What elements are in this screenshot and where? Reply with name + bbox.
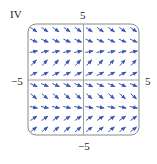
field-arrow <box>64 27 70 31</box>
field-arrow <box>30 72 37 75</box>
field-arrow <box>41 107 48 108</box>
field-arrow <box>30 84 37 87</box>
field-arrow <box>108 39 115 42</box>
field-arrow <box>63 51 70 52</box>
field-arrow <box>52 51 59 52</box>
field-arrow <box>86 84 93 87</box>
field-arrow <box>42 127 48 132</box>
field-arrow <box>53 127 59 132</box>
field-arrow <box>63 107 70 108</box>
field-arrow <box>75 94 81 99</box>
field-arrow <box>119 72 126 75</box>
field-arrow <box>131 60 136 66</box>
field-arrow <box>85 107 92 108</box>
field-arrow <box>31 127 37 132</box>
field-arrow <box>75 116 81 120</box>
field-arrow <box>64 72 71 75</box>
field-arrow <box>41 72 48 75</box>
field-arrow <box>86 127 92 132</box>
field-arrow <box>41 51 48 52</box>
field-arrow <box>52 72 59 75</box>
field-arrow <box>119 127 125 132</box>
field-arrow <box>64 116 70 120</box>
field-arrow <box>74 107 81 108</box>
field-arrow <box>86 27 92 31</box>
field-arrow <box>64 127 70 132</box>
field-arrow <box>97 116 103 120</box>
field-arrow <box>74 51 81 52</box>
field-arrow <box>75 27 81 31</box>
field-arrow <box>97 27 103 31</box>
field-arrow <box>97 127 103 132</box>
field-arrow <box>52 39 59 42</box>
field-arrow <box>52 107 59 108</box>
field-arrow <box>119 107 126 108</box>
field-arrow <box>130 116 136 120</box>
field-arrow <box>97 72 104 75</box>
field-arrow <box>86 116 92 120</box>
field-arrow <box>108 72 115 75</box>
field-arrow <box>53 116 59 120</box>
field-arrow <box>75 39 82 42</box>
field-arrow <box>53 27 59 31</box>
field-arrow <box>120 60 125 66</box>
field-arrow <box>42 60 47 66</box>
field-arrow <box>119 39 126 42</box>
field-arrow <box>108 127 114 132</box>
field-arrow <box>119 27 125 31</box>
field-arrow <box>109 60 114 66</box>
field-arrow <box>86 72 93 75</box>
field-arrow <box>87 60 92 66</box>
field-arrow <box>64 60 69 66</box>
field-arrow <box>75 127 81 132</box>
field-arrow <box>108 116 114 120</box>
vector-field-plot <box>0 0 157 164</box>
field-arrow <box>41 39 48 42</box>
field-arrow <box>108 94 114 99</box>
field-arrow <box>75 60 80 66</box>
field-arrow <box>31 94 37 99</box>
field-arrow <box>53 94 59 99</box>
field-arrow <box>119 84 126 87</box>
field-arrow <box>108 107 115 108</box>
field-arrow <box>86 94 92 99</box>
field-arrow <box>52 84 59 87</box>
field-arrow <box>130 107 137 108</box>
field-arrow <box>53 60 58 66</box>
field-arrow <box>30 116 36 120</box>
field-arrow <box>96 51 103 52</box>
field-arrow <box>42 116 48 120</box>
field-arrow <box>42 94 48 99</box>
field-arrow <box>120 94 126 99</box>
field-arrow <box>119 51 126 52</box>
field-arrow <box>30 51 37 52</box>
field-arrow <box>75 84 82 87</box>
field-arrow <box>31 60 36 66</box>
field-arrow <box>131 127 137 132</box>
field-arrow <box>96 107 103 108</box>
field-arrow <box>108 27 114 31</box>
field-arrow <box>130 84 137 87</box>
field-arrow <box>75 72 82 75</box>
field-arrow <box>130 27 136 31</box>
field-arrow <box>30 107 37 108</box>
field-arrow <box>42 27 48 31</box>
field-arrow <box>63 39 70 42</box>
field-arrow <box>97 94 103 99</box>
field-arrow <box>97 39 104 42</box>
field-arrow <box>86 39 93 42</box>
field-arrow <box>108 51 115 52</box>
field-arrow <box>131 94 137 99</box>
field-arrow <box>119 116 125 120</box>
field-arrow <box>130 72 137 75</box>
field-arrow <box>130 39 137 42</box>
field-arrow <box>130 51 137 52</box>
field-arrow <box>64 94 70 99</box>
field-arrow <box>85 51 92 52</box>
field-arrow <box>97 84 104 87</box>
field-arrow <box>63 84 70 87</box>
field-arrow <box>30 39 37 42</box>
field-arrow <box>98 60 103 66</box>
field-arrow <box>108 84 115 87</box>
field-arrow <box>30 27 36 31</box>
